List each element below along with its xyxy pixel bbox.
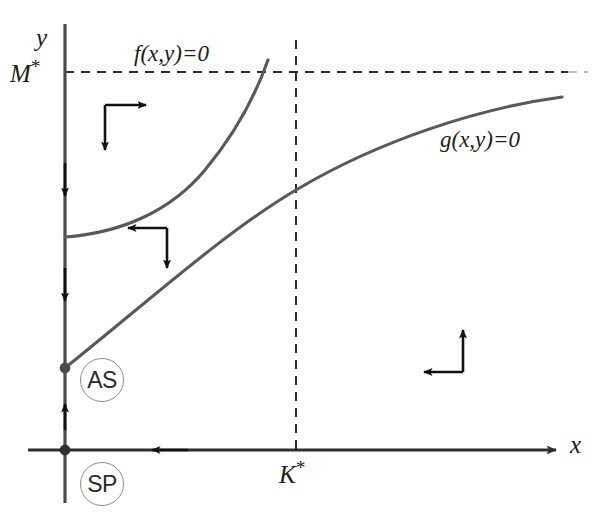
axes-group (28, 24, 556, 503)
x-tick-k-star-text: K (279, 461, 296, 488)
x-tick-k-star-superscript: * (296, 457, 306, 478)
y-tick-m-star: M* (10, 57, 41, 86)
direction-field-middle (128, 228, 167, 268)
g-nullcline-label: g(x,y)=0 (440, 128, 520, 151)
y-axis-label: y (36, 25, 47, 50)
sp-equilibrium-badge: SP (80, 462, 124, 506)
as-equilibrium-badge: AS (80, 358, 124, 402)
guide-lines (65, 40, 588, 450)
axis-flow-arrows (65, 163, 188, 450)
sp-equilibrium-dot (60, 445, 71, 456)
x-axis-label: x (570, 432, 581, 457)
y-tick-m-star-text: M (10, 60, 31, 87)
phase-plane-figure: y x M* K* f(x,y)=0 g(x,y)=0 AS SP (0, 0, 612, 521)
y-tick-m-star-superscript: * (31, 56, 41, 77)
phase-plane-canvas (0, 0, 612, 521)
direction-field-lower-right (424, 330, 463, 372)
f-nullcline-curve (65, 60, 268, 237)
as-equilibrium-dot (60, 363, 71, 374)
f-nullcline-label: f(x,y)=0 (134, 42, 209, 65)
direction-field-upper-left (105, 105, 146, 150)
x-tick-k-star: K* (279, 458, 305, 487)
